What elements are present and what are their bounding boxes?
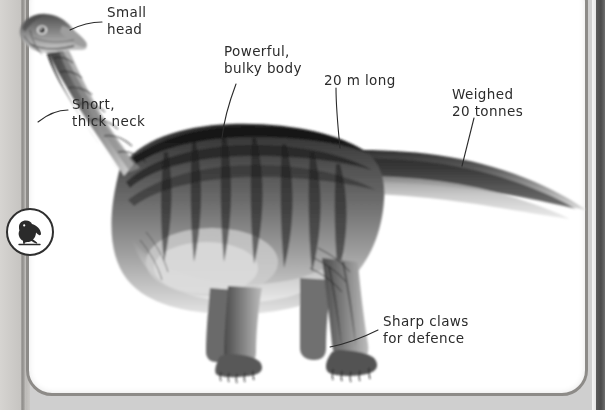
annotation-sharp-claws-for-defence: Sharp claws for defence bbox=[383, 313, 469, 347]
content-panel bbox=[26, 0, 588, 396]
dinosaur-fact-page: Small head Short, thick neck Powerful, b… bbox=[0, 0, 605, 410]
annotation-weighed-twenty-tonnes: Weighed 20 tonnes bbox=[452, 86, 523, 120]
annotation-small-head: Small head bbox=[107, 4, 147, 38]
annotation-short-thick-neck: Short, thick neck bbox=[72, 96, 145, 130]
panel-inner-shadow bbox=[29, 0, 585, 393]
annotation-powerful-bulky-body: Powerful, bulky body bbox=[224, 43, 302, 77]
annotation-twenty-metres-long: 20 m long bbox=[324, 72, 396, 89]
dinosaur-badge bbox=[6, 208, 54, 256]
dinosaur-icon bbox=[10, 212, 50, 252]
page-right-edge-shadow bbox=[596, 0, 605, 410]
margin-rule-line bbox=[21, 0, 25, 410]
